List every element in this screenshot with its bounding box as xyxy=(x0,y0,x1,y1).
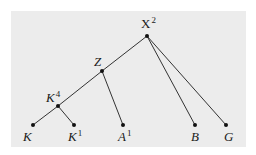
node-label-B: B xyxy=(191,130,199,143)
node-dot-X2 xyxy=(145,34,149,38)
node-label-base: K xyxy=(68,129,77,144)
node-label-A1: A1 xyxy=(118,130,131,143)
node-label-Z: Z xyxy=(94,55,101,68)
node-label-K: K xyxy=(23,130,32,143)
node-label-base: K xyxy=(23,129,32,144)
node-label-K1: K1 xyxy=(68,130,82,143)
node-dot-K4 xyxy=(56,104,60,108)
edge-X2-G xyxy=(147,36,226,125)
edge-X2-B xyxy=(147,36,195,125)
node-label-superscript: 1 xyxy=(78,128,83,138)
node-dot-K xyxy=(31,123,35,127)
edge-K4-K1 xyxy=(58,106,74,125)
node-label-X2: X2 xyxy=(141,17,156,30)
node-label-base: G xyxy=(224,129,233,144)
node-label-base: K xyxy=(46,90,55,105)
node-dot-B xyxy=(193,123,197,127)
node-label-base: A xyxy=(118,129,126,144)
node-label-superscript: 4 xyxy=(56,89,61,99)
node-dot-G xyxy=(224,123,228,127)
node-label-base: Z xyxy=(94,54,101,69)
node-label-superscript: 1 xyxy=(127,128,132,138)
edge-K4-K xyxy=(33,106,58,125)
node-label-base: B xyxy=(191,129,199,144)
node-label-G: G xyxy=(224,130,233,143)
node-dot-K1 xyxy=(72,123,76,127)
node-dot-Z xyxy=(100,69,104,73)
node-label-base: X xyxy=(141,16,150,31)
edge-X2-Z xyxy=(102,36,147,71)
node-label-K4: K4 xyxy=(46,91,60,104)
node-label-superscript: 2 xyxy=(151,15,156,25)
node-dot-A1 xyxy=(121,123,125,127)
edge-Z-K4 xyxy=(58,71,102,106)
edge-Z-A1 xyxy=(102,71,123,125)
